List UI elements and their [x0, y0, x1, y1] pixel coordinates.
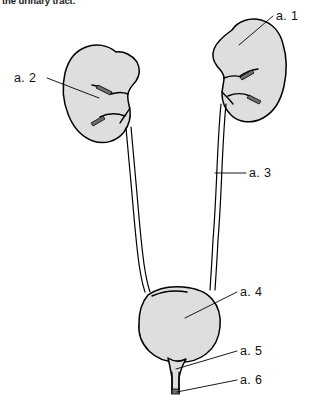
right-ureter-group: [210, 104, 226, 290]
bladder-outline: [139, 287, 220, 362]
bladder-group: [139, 287, 220, 362]
leader-line-a6: [177, 380, 237, 392]
urinary-tract-figure: the urinary tract.: [0, 0, 313, 395]
left-ureter-group: [126, 127, 150, 292]
label-a5: a. 5: [240, 344, 262, 358]
label-a1: a. 1: [276, 9, 298, 23]
bladder-neck-outline: [168, 358, 186, 393]
label-a6: a. 6: [240, 373, 262, 387]
right-kidney-group: [213, 19, 286, 122]
urinary-tract-diagram: a. 1 a. 2 a. 3 a. 4 a. 5 a. 6: [0, 0, 313, 395]
label-a3: a. 3: [249, 166, 271, 180]
left-kidney-group: [63, 45, 139, 143]
label-a2: a. 2: [14, 71, 36, 85]
right-ureter-outer-wall: [210, 104, 221, 290]
urethra-group: [168, 358, 186, 394]
left-ureter-outer-wall: [126, 128, 145, 292]
right-ureter-inner-wall: [215, 104, 226, 290]
right-kidney-outline: [213, 19, 286, 122]
label-a4: a. 4: [240, 285, 262, 299]
